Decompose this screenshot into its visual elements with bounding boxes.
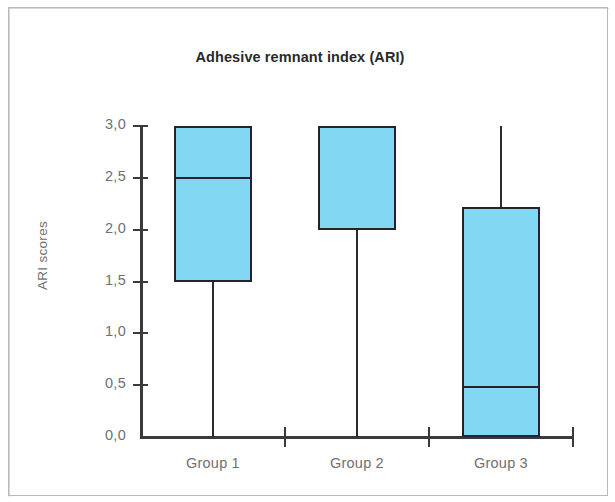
box-median-line — [462, 386, 540, 389]
y-tick-label-wrap: 2,0 — [82, 220, 126, 238]
y-tick-mark — [133, 436, 148, 438]
y-tick-label-wrap: 0,0 — [82, 427, 126, 445]
box-body — [462, 207, 540, 437]
box-whisker-lower — [212, 282, 215, 438]
y-tick-mark — [133, 177, 148, 179]
y-tick-label: 2,5 — [82, 168, 126, 184]
y-tick-label: 0,0 — [82, 427, 126, 443]
box-body — [318, 126, 396, 230]
y-tick-label-wrap: 3,0 — [82, 116, 126, 134]
x-tick-mark — [284, 427, 286, 447]
y-axis-line — [140, 126, 143, 439]
y-tick-label-wrap: 0,5 — [82, 375, 126, 393]
y-tick-label-wrap: 1,0 — [82, 323, 126, 341]
y-tick-label: 3,0 — [82, 116, 126, 132]
box-body — [174, 126, 252, 282]
x-axis-category-label: Group 2 — [297, 455, 417, 471]
x-tick-mark — [572, 427, 574, 447]
plot-area: 0,00,51,01,52,02,53,0 Group 1Group 2Grou… — [0, 0, 615, 502]
y-tick-label: 0,5 — [82, 375, 126, 391]
y-tick-mark — [133, 229, 148, 231]
box-whisker-upper — [500, 126, 503, 207]
y-tick-mark — [133, 332, 148, 334]
box-median-line — [174, 177, 252, 180]
box-whisker-lower — [356, 230, 359, 437]
x-axis-category-label: Group 1 — [153, 455, 273, 471]
x-tick-mark — [428, 427, 430, 447]
y-axis-title: ARI scores — [35, 196, 50, 316]
figure-canvas: Adhesive remnant index (ARI) 0,00,51,01,… — [0, 0, 615, 502]
y-tick-mark — [133, 125, 148, 127]
y-tick-label: 1,5 — [82, 272, 126, 288]
x-axis-category-label: Group 3 — [441, 455, 561, 471]
y-tick-label: 1,0 — [82, 323, 126, 339]
y-tick-mark — [133, 384, 148, 386]
y-tick-label: 2,0 — [82, 220, 126, 236]
y-tick-label-wrap: 2,5 — [82, 168, 126, 186]
y-tick-label-wrap: 1,5 — [82, 272, 126, 290]
y-tick-mark — [133, 281, 148, 283]
